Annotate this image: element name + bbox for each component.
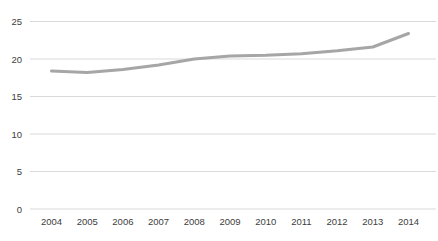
- x-tick-label: 2007: [148, 216, 169, 227]
- x-tick-label: 2009: [219, 216, 240, 227]
- x-tick-label: 2006: [112, 216, 133, 227]
- y-tick-label: 5: [17, 166, 22, 177]
- x-tick-label: 2011: [291, 216, 311, 227]
- y-tick-label: 20: [11, 54, 22, 65]
- x-tick-label: 2010: [255, 216, 276, 227]
- y-tick-label: 15: [11, 91, 22, 102]
- y-tick-label: 25: [11, 16, 22, 27]
- line-chart: 0510152025200420052006200720082009201020…: [0, 0, 438, 241]
- x-tick-label: 2008: [184, 216, 205, 227]
- x-tick-label: 2012: [327, 216, 348, 227]
- x-tick-label: 2005: [77, 216, 98, 227]
- x-tick-label: 2013: [362, 216, 383, 227]
- y-tick-label: 0: [17, 204, 22, 215]
- chart-background: [0, 0, 438, 241]
- x-tick-label: 2004: [41, 216, 62, 227]
- chart-canvas: 0510152025200420052006200720082009201020…: [0, 0, 438, 241]
- x-tick-label: 2014: [398, 216, 419, 227]
- y-tick-label: 10: [11, 129, 22, 140]
